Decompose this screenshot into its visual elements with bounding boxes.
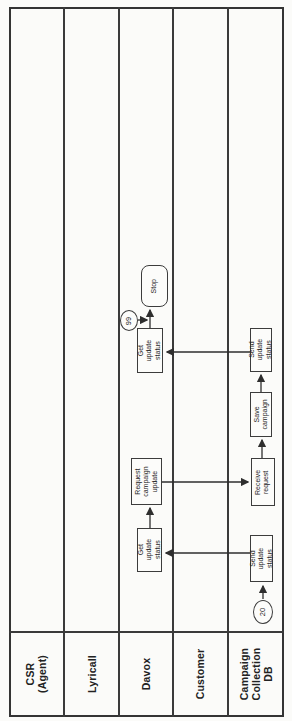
- node-stop-label: Stop: [150, 279, 158, 293]
- lane-label-campaign-collection-db-text: Campaign Collection DB: [238, 647, 274, 701]
- lane-label-davox: Davox: [120, 633, 172, 715]
- lane-label-davox-text: Davox: [140, 658, 152, 691]
- lane-label-campaign-collection-db: Campaign Collection DB: [229, 633, 283, 715]
- node-receive-request: Receive request: [251, 458, 275, 506]
- offpage-connector-20-label: 20: [259, 608, 267, 616]
- node-save-campaign-label: Save campaign: [253, 399, 270, 429]
- node-receive-request-label: Receive request: [255, 469, 272, 494]
- lane-label-csr-agent: CSR (Agent): [10, 633, 63, 715]
- node-request-campaign-update-label: Request campaign update: [134, 466, 159, 496]
- lane-divider-2: [118, 7, 120, 717]
- scanned-swimlane-diagram-page: CSR (Agent) Lyricall Davox Customer Camp…: [0, 0, 292, 721]
- lane-label-lyricall-text: Lyricall: [85, 655, 97, 693]
- offpage-connector-20: 20: [253, 600, 273, 624]
- lane-label-lyricall: Lyricall: [65, 633, 118, 715]
- lane-divider-1: [63, 7, 65, 717]
- node-get-update-status-2-label: Get update status: [137, 539, 162, 562]
- node-save-campaign: Save campaign: [250, 392, 272, 437]
- node-stop: Stop: [141, 265, 168, 307]
- lane-label-customer: Customer: [174, 633, 227, 715]
- node-send-update-status-1: Send update status: [250, 328, 272, 372]
- offpage-connector-99-label: 99: [125, 316, 133, 324]
- node-get-update-status-2: Get update status: [137, 528, 162, 572]
- lane-label-customer-text: Customer: [194, 649, 206, 700]
- lane-divider-4: [227, 7, 229, 717]
- lane-label-csr-agent-text: CSR (Agent): [24, 655, 48, 693]
- node-send-update-status-2-label: Send update status: [249, 548, 274, 569]
- node-send-update-status-2: Send update status: [250, 535, 273, 582]
- node-send-update-status-1-label: Send update status: [248, 339, 273, 360]
- offpage-connector-99: 99: [120, 310, 138, 331]
- node-get-update-status-1-label: Get update status: [137, 339, 162, 363]
- lane-divider-3: [172, 7, 174, 717]
- node-get-update-status-1: Get update status: [137, 328, 163, 373]
- node-request-campaign-update: Request campaign update: [131, 458, 162, 505]
